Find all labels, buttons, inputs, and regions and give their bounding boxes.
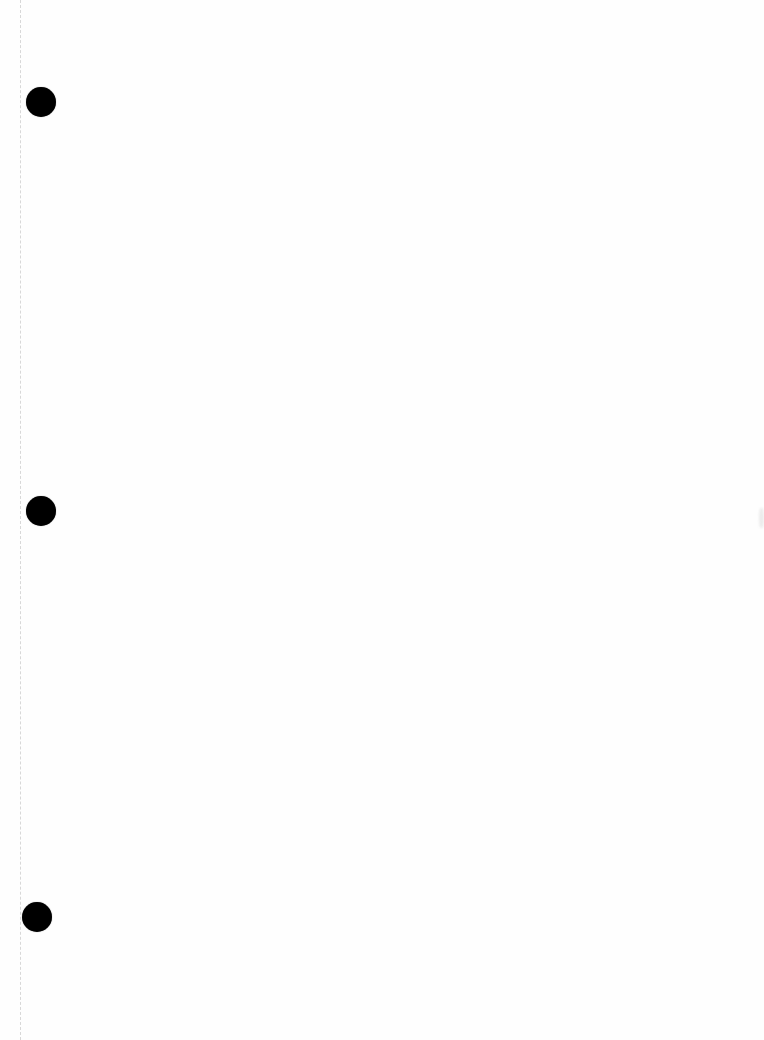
- punch-hole-top: [26, 87, 56, 117]
- blank-page: [0, 0, 764, 1040]
- margin-dashed-line: [20, 0, 21, 1040]
- punch-hole-bottom: [22, 902, 52, 932]
- scan-smudge: [759, 508, 764, 528]
- punch-hole-middle: [26, 496, 56, 526]
